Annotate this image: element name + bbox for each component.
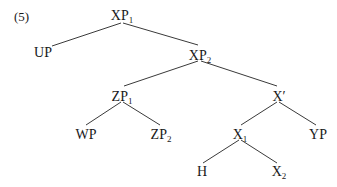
node-subscript: 1 bbox=[243, 134, 248, 144]
node-label: X′ bbox=[272, 89, 285, 104]
node-label: YP bbox=[309, 127, 327, 142]
node-subscript: 1 bbox=[128, 96, 133, 106]
node-label: XP bbox=[111, 8, 129, 23]
node-subscript: 2 bbox=[167, 134, 172, 144]
node-label: ZP bbox=[112, 89, 128, 104]
node-label: XP bbox=[189, 48, 207, 63]
node-label: X bbox=[272, 164, 282, 179]
node-xp1: XP1 bbox=[111, 9, 133, 23]
node-x1: X1 bbox=[233, 128, 248, 142]
node-label: WP bbox=[76, 127, 97, 142]
edge-x1-h bbox=[203, 140, 239, 163]
node-label: ZP bbox=[151, 127, 167, 142]
node-subscript: 2 bbox=[207, 55, 212, 65]
edge-xbar-x1 bbox=[241, 102, 277, 125]
edge-xp2-zp1 bbox=[124, 61, 198, 86]
node-wp: WP bbox=[76, 128, 97, 142]
edge-xbar-yp bbox=[279, 102, 316, 125]
edge-xp1-up bbox=[52, 23, 121, 46]
node-xbar: X′ bbox=[272, 90, 285, 104]
node-label: UP bbox=[34, 45, 52, 60]
node-xp2: XP2 bbox=[189, 49, 211, 63]
tree-edges bbox=[0, 0, 337, 187]
edge-xp2-xbar bbox=[201, 61, 277, 86]
node-label: H bbox=[197, 164, 207, 179]
node-h: H bbox=[197, 165, 207, 179]
node-zp1: ZP1 bbox=[112, 90, 133, 104]
node-subscript: 2 bbox=[282, 171, 287, 181]
edge-zp1-wp bbox=[86, 102, 121, 125]
node-x2: X2 bbox=[272, 165, 287, 179]
node-label: X bbox=[233, 127, 243, 142]
node-up: UP bbox=[34, 46, 52, 60]
node-zp2: ZP2 bbox=[151, 128, 172, 142]
node-yp: YP bbox=[309, 128, 327, 142]
node-subscript: 1 bbox=[129, 15, 134, 25]
edge-xp1-xp2 bbox=[123, 23, 198, 45]
